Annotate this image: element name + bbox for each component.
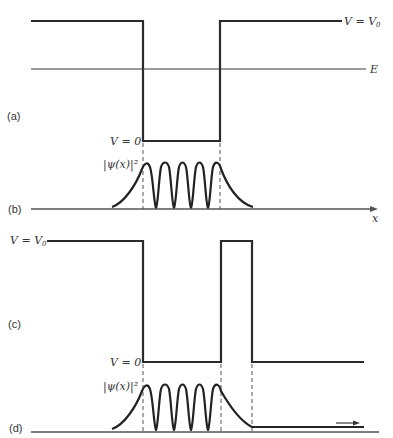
potential-well-diagram: V = V0 E V = 0 (a) x |ψ(x)|² (b) V = V0 … bbox=[0, 0, 393, 438]
panel-label-d: (d) bbox=[9, 422, 22, 434]
transmission-arrow-icon bbox=[353, 421, 360, 426]
panel-label-b: (b) bbox=[8, 203, 21, 215]
label-psi-b: |ψ(x)|² bbox=[103, 158, 138, 172]
label-x-axis: x bbox=[372, 212, 379, 225]
panel-label-c: (c) bbox=[8, 318, 21, 330]
probability-density-curve-d bbox=[112, 385, 364, 431]
label-v-eq-0-a: V = 0 bbox=[110, 135, 141, 148]
label-v-eq-v0-c: V = V0 bbox=[10, 234, 47, 248]
panel-b-probability: x |ψ(x)|² (b) bbox=[8, 143, 379, 225]
well-potential-a bbox=[31, 21, 342, 141]
panel-d-tunneling: |ψ(x)|² (d) bbox=[9, 364, 379, 434]
label-v-eq-0-c: V = 0 bbox=[110, 356, 141, 369]
panel-label-a: (a) bbox=[7, 110, 20, 122]
panel-c-potential-barrier: V = V0 V = 0 (c) bbox=[8, 234, 364, 369]
panel-a-potential: V = V0 E V = 0 (a) bbox=[7, 15, 381, 148]
well-with-barrier-potential bbox=[47, 241, 364, 362]
label-psi-d: |ψ(x)|² bbox=[103, 380, 138, 394]
label-energy: E bbox=[369, 63, 378, 76]
label-v-eq-v0: V = V0 bbox=[344, 15, 381, 29]
